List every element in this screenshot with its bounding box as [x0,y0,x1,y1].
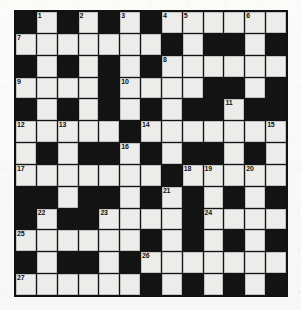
crossword-cell-open[interactable]: 10 [120,78,140,99]
crossword-cell-open[interactable] [79,99,99,120]
crossword-cell-open[interactable]: 3 [120,12,140,33]
crossword-cell-open[interactable] [120,165,140,186]
crossword-cell-open[interactable] [120,99,140,120]
crossword-cell-open[interactable] [37,78,57,99]
crossword-cell-open[interactable]: 13 [58,121,78,142]
crossword-cell-open[interactable] [37,252,57,273]
crossword-cell-open[interactable]: 8 [162,56,182,77]
crossword-cell-open[interactable] [99,230,119,251]
crossword-cell-open[interactable] [204,187,224,208]
crossword-cell-open[interactable]: 12 [16,121,36,142]
crossword-cell-open[interactable] [183,252,203,273]
crossword-cell-open[interactable] [204,230,224,251]
crossword-cell-open[interactable] [120,187,140,208]
crossword-cell-open[interactable] [37,56,57,77]
crossword-cell-open[interactable] [58,165,78,186]
crossword-cell-open[interactable] [162,121,182,142]
crossword-cell-open[interactable] [162,274,182,295]
crossword-cell-open[interactable] [245,121,265,142]
crossword-cell-open[interactable] [245,34,265,55]
crossword-cell-open[interactable] [37,274,57,295]
crossword-cell-open[interactable] [224,209,244,230]
crossword-cell-open[interactable] [79,274,99,295]
crossword-cell-open[interactable] [141,209,161,230]
crossword-cell-open[interactable] [245,56,265,77]
crossword-cell-open[interactable] [79,34,99,55]
crossword-cell-open[interactable] [120,274,140,295]
crossword-cell-open[interactable] [266,209,286,230]
crossword-cell-open[interactable] [141,34,161,55]
crossword-cell-open[interactable] [266,143,286,164]
crossword-cell-open[interactable] [162,99,182,120]
crossword-cell-open[interactable] [183,56,203,77]
crossword-cell-open[interactable]: 26 [141,252,161,273]
crossword-cell-open[interactable] [266,165,286,186]
crossword-cell-open[interactable] [162,78,182,99]
crossword-cell-open[interactable] [183,121,203,142]
crossword-cell-open[interactable] [58,143,78,164]
crossword-cell-open[interactable]: 5 [183,12,203,33]
crossword-cell-open[interactable] [162,252,182,273]
crossword-cell-open[interactable] [204,252,224,273]
crossword-cell-open[interactable]: 1 [37,12,57,33]
crossword-cell-open[interactable] [120,230,140,251]
crossword-cell-open[interactable] [120,34,140,55]
crossword-cell-open[interactable] [245,274,265,295]
crossword-cell-open[interactable] [245,187,265,208]
crossword-cell-open[interactable] [37,34,57,55]
crossword-cell-open[interactable] [183,34,203,55]
crossword-cell-open[interactable] [162,143,182,164]
crossword-cell-open[interactable]: 22 [37,209,57,230]
crossword-cell-open[interactable] [99,34,119,55]
crossword-cell-open[interactable] [79,121,99,142]
crossword-cell-open[interactable]: 7 [16,34,36,55]
crossword-cell-open[interactable] [204,56,224,77]
crossword-cell-open[interactable] [79,230,99,251]
crossword-cell-open[interactable] [245,252,265,273]
crossword-cell-open[interactable]: 6 [245,12,265,33]
crossword-cell-open[interactable] [266,56,286,77]
crossword-grid[interactable]: 1234567891011121314151617181920212223242… [14,10,288,297]
crossword-cell-open[interactable]: 20 [245,165,265,186]
crossword-cell-open[interactable] [37,121,57,142]
crossword-cell-open[interactable] [79,165,99,186]
crossword-cell-open[interactable] [204,274,224,295]
crossword-cell-open[interactable]: 19 [204,165,224,186]
crossword-cell-open[interactable]: 18 [183,165,203,186]
crossword-cell-open[interactable]: 11 [224,99,244,120]
crossword-cell-open[interactable] [99,121,119,142]
crossword-cell-open[interactable] [79,56,99,77]
crossword-cell-open[interactable] [99,252,119,273]
crossword-cell-open[interactable] [162,209,182,230]
crossword-cell-open[interactable] [99,165,119,186]
crossword-cell-open[interactable] [266,12,286,33]
crossword-cell-open[interactable] [224,143,244,164]
crossword-cell-open[interactable] [37,165,57,186]
crossword-cell-open[interactable] [245,209,265,230]
crossword-cell-open[interactable]: 4 [162,12,182,33]
crossword-cell-open[interactable] [224,56,244,77]
crossword-cell-open[interactable]: 27 [16,274,36,295]
crossword-cell-open[interactable] [58,34,78,55]
crossword-cell-open[interactable]: 2 [79,12,99,33]
crossword-cell-open[interactable]: 17 [16,165,36,186]
crossword-cell-open[interactable] [224,12,244,33]
crossword-cell-open[interactable]: 14 [141,121,161,142]
crossword-cell-open[interactable] [162,230,182,251]
crossword-cell-open[interactable]: 9 [16,78,36,99]
crossword-cell-open[interactable] [224,165,244,186]
crossword-cell-open[interactable] [58,230,78,251]
crossword-cell-open[interactable] [204,121,224,142]
crossword-cell-open[interactable] [99,274,119,295]
crossword-cell-open[interactable] [37,230,57,251]
crossword-cell-open[interactable] [16,143,36,164]
crossword-cell-open[interactable] [183,78,203,99]
crossword-cell-open[interactable] [58,78,78,99]
crossword-cell-open[interactable] [141,165,161,186]
crossword-cell-open[interactable] [37,99,57,120]
crossword-cell-open[interactable] [58,274,78,295]
crossword-cell-open[interactable] [204,12,224,33]
crossword-cell-open[interactable]: 23 [99,209,119,230]
crossword-cell-open[interactable]: 24 [204,209,224,230]
crossword-cell-open[interactable] [79,78,99,99]
